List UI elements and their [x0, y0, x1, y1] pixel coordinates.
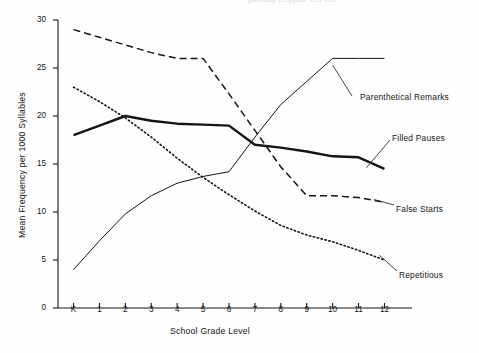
x-tick-label: 8 — [270, 305, 292, 314]
series-line-false-starts — [74, 30, 385, 203]
x-tick-label: 5 — [192, 305, 214, 314]
leader-line — [374, 200, 394, 205]
series-label-parenthetical-remarks: Parenthetical Remarks — [360, 92, 449, 102]
series-label-repetitious: Repetitious — [399, 270, 443, 280]
x-tick-label: K — [63, 305, 85, 314]
x-tick-label: 2 — [114, 305, 136, 314]
series-label-false-starts: False Starts — [396, 204, 443, 214]
y-tick-label: 25 — [24, 63, 46, 72]
line-chart-canvas — [0, 0, 479, 353]
y-tick-label: 10 — [24, 207, 46, 216]
x-tick-label: 10 — [322, 305, 344, 314]
y-tick-label: 0 — [24, 303, 46, 312]
x-tick-label: 6 — [218, 305, 240, 314]
x-tick-label: 7 — [244, 305, 266, 314]
y-tick-label: 30 — [24, 15, 46, 24]
x-tick-label: 3 — [140, 305, 162, 314]
y-axis-title: Mean Frequency per 1000 Syllables — [17, 65, 27, 265]
x-tick-label: 4 — [166, 305, 188, 314]
leader-line — [379, 255, 397, 271]
x-axis-title: School Grade Level — [0, 326, 420, 336]
y-tick-label: 5 — [24, 255, 46, 264]
chart-tick-marks — [53, 20, 384, 308]
series-line-parenthetical-remarks — [74, 58, 385, 269]
figure-container: partially cropped text line 051015202530… — [0, 0, 479, 353]
x-tick-label: 11 — [348, 305, 370, 314]
x-tick-label: 9 — [296, 305, 318, 314]
x-tick-label: 1 — [88, 305, 110, 314]
x-tick-label: 12 — [373, 305, 395, 314]
series-line-filled-pauses — [74, 116, 385, 169]
series-line-repetitious — [74, 87, 385, 260]
series-label-filled-pauses: Filled Pauses — [392, 133, 445, 143]
y-tick-label: 20 — [24, 111, 46, 120]
y-tick-label: 15 — [24, 159, 46, 168]
leader-line — [333, 65, 352, 96]
chart-series-lines — [74, 30, 385, 270]
leader-line — [366, 140, 390, 168]
